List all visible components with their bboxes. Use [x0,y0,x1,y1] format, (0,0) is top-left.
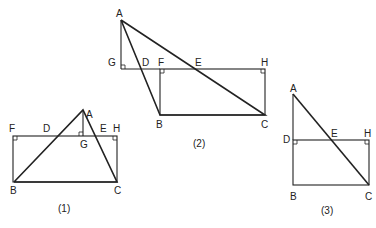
fig2-label-D: D [142,57,149,68]
fig3-label-B: B [290,191,297,202]
fig3-label-C: C [365,191,372,202]
fig1-right-angle-F [13,136,17,140]
fig2-label-B: B [156,119,163,130]
fig2-right-angle-H [261,69,265,73]
fig2-label-H: H [261,57,268,68]
fig3-label-D: D [283,134,290,145]
fig2-label-G: G [108,57,116,68]
fig2-label-A: A [116,8,123,19]
fig1-label-D: D [43,123,50,134]
fig3-label-H: H [364,128,371,139]
fig3-caption: (3) [321,205,333,216]
fig1-label-C: C [114,185,121,196]
fig2-right-angle-G [121,65,125,69]
fig1-right-angle-H [113,136,117,140]
fig2-label-F: F [158,57,164,68]
figure-3: A D E H B C (3) [283,83,372,216]
fig1-label-B: B [10,185,17,196]
fig3-right-angle-D [293,140,297,144]
fig1-rectangle [13,136,117,182]
fig3-label-A: A [290,83,297,94]
fig3-rectangle [293,140,369,185]
fig2-label-C: C [261,119,268,130]
figure-1: A F D G E H B C (1) [9,109,121,214]
geometry-diagram: A F D G E H B C (1) A G D F E H B C (2) [0,0,376,228]
fig1-caption: (1) [58,203,70,214]
fig1-label-H: H [113,123,120,134]
fig1-label-G: G [80,139,88,150]
figure-2: A G D F E H B C (2) [108,8,268,149]
fig1-label-A: A [86,109,93,120]
fig2-label-E: E [195,57,202,68]
fig1-label-F: F [9,123,15,134]
fig2-right-angle-F [160,69,164,73]
fig1-right-angle-G [79,132,83,136]
fig3-right-angle-H [365,140,369,144]
fig2-caption: (2) [193,138,205,149]
diagram-canvas: A F D G E H B C (1) A G D F E H B C (2) [0,0,376,228]
fig3-label-E: E [331,128,338,139]
fig1-triangle [14,110,117,182]
fig2-rectangle [160,69,265,115]
fig1-label-E: E [100,123,107,134]
